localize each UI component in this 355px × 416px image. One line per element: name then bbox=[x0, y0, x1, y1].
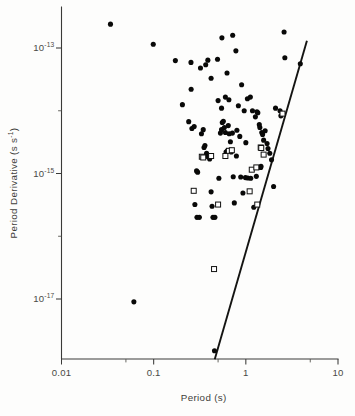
data-point-circle-39 bbox=[192, 124, 197, 129]
data-point-circle-11 bbox=[233, 48, 238, 53]
data-point-circle-36 bbox=[180, 102, 185, 107]
data-point-circle-53 bbox=[209, 189, 214, 194]
data-point-circle-28 bbox=[269, 157, 274, 162]
data-point-circle-14 bbox=[248, 95, 253, 100]
data-point-square-9 bbox=[247, 189, 252, 194]
data-point-circle-91 bbox=[189, 87, 194, 92]
data-point-circle-42 bbox=[192, 202, 197, 207]
data-point-square-2 bbox=[201, 155, 206, 160]
data-point-circle-2 bbox=[173, 58, 178, 63]
data-point-circle-15 bbox=[250, 108, 255, 113]
data-point-circle-35 bbox=[298, 61, 303, 66]
data-point-circle-93 bbox=[219, 106, 224, 111]
data-point-circle-56 bbox=[212, 215, 217, 220]
death-line bbox=[215, 41, 307, 359]
data-point-square-16 bbox=[280, 111, 285, 116]
data-point-circle-12 bbox=[239, 82, 244, 87]
data-point-circle-30 bbox=[273, 106, 278, 111]
x-tick-label-2: 1 bbox=[243, 367, 249, 378]
data-point-circle-67 bbox=[226, 123, 231, 128]
data-point-square-0 bbox=[191, 188, 196, 193]
data-point-circle-18 bbox=[255, 110, 260, 115]
data-point-circle-54 bbox=[210, 204, 215, 209]
data-point-circle-4 bbox=[198, 65, 203, 70]
data-point-circle-10 bbox=[230, 33, 235, 38]
data-point-circle-24 bbox=[263, 128, 268, 133]
data-point-circle-44 bbox=[197, 215, 202, 220]
data-point-circle-74 bbox=[234, 153, 239, 158]
y-tick-label-1: 10-15 bbox=[33, 167, 54, 179]
data-point-circle-69 bbox=[228, 139, 233, 144]
scatter-plot-figure: 10-1310-1510-170.010.1110Period (s)Perio… bbox=[0, 0, 355, 416]
data-point-circle-80 bbox=[242, 108, 247, 113]
data-point-circle-62 bbox=[221, 119, 226, 124]
data-point-circle-57 bbox=[216, 98, 221, 103]
data-point-circle-41 bbox=[195, 170, 200, 175]
data-point-circle-86 bbox=[254, 174, 259, 179]
data-point-circle-9 bbox=[224, 70, 229, 75]
data-point-circle-0 bbox=[108, 22, 113, 27]
data-point-square-8 bbox=[229, 148, 234, 153]
data-point-circle-58 bbox=[216, 176, 221, 181]
data-point-circle-89 bbox=[212, 348, 217, 353]
data-point-circle-95 bbox=[226, 97, 231, 102]
y-tick-label-0: 10-13 bbox=[33, 41, 54, 53]
data-point-square-14 bbox=[259, 145, 264, 150]
data-point-square-6 bbox=[223, 154, 228, 159]
data-point-circle-90 bbox=[131, 299, 136, 304]
data-point-circle-73 bbox=[232, 200, 237, 205]
data-point-circle-34 bbox=[282, 55, 287, 60]
x-tick-label-1: 0.1 bbox=[147, 367, 161, 378]
y-axis-title: Period Derivative (s s-1) bbox=[7, 127, 19, 238]
data-point-circle-20 bbox=[257, 125, 262, 130]
data-point-circle-72 bbox=[231, 174, 236, 179]
data-point-square-3 bbox=[209, 154, 214, 159]
data-point-square-4 bbox=[212, 267, 217, 272]
data-point-circle-76 bbox=[236, 103, 241, 108]
data-point-circle-75 bbox=[234, 128, 239, 133]
data-point-circle-7 bbox=[215, 57, 220, 62]
data-point-circle-92 bbox=[209, 76, 214, 81]
data-point-circle-27 bbox=[267, 151, 272, 156]
x-tick-label-0: 0.01 bbox=[52, 367, 71, 378]
data-point-circle-25 bbox=[265, 141, 270, 146]
data-point-circle-84 bbox=[248, 176, 253, 181]
data-point-square-15 bbox=[261, 152, 266, 157]
data-point-circle-29 bbox=[271, 184, 276, 189]
x-axis-title: Period (s) bbox=[181, 392, 227, 403]
data-point-square-11 bbox=[254, 165, 259, 170]
data-point-circle-78 bbox=[238, 174, 243, 179]
y-tick-label-2: 10-17 bbox=[33, 292, 54, 304]
data-point-circle-37 bbox=[186, 119, 191, 124]
data-point-square-12 bbox=[255, 202, 260, 207]
data-point-circle-46 bbox=[201, 127, 206, 132]
x-tick-label-3: 10 bbox=[332, 367, 343, 378]
data-point-circle-6 bbox=[205, 58, 210, 63]
data-point-circle-26 bbox=[265, 146, 270, 151]
data-point-circle-77 bbox=[237, 134, 242, 139]
data-point-circle-8 bbox=[219, 35, 224, 40]
data-point-circle-71 bbox=[230, 131, 235, 136]
data-point-circle-82 bbox=[243, 140, 248, 145]
data-point-circle-48 bbox=[202, 143, 207, 148]
data-point-circle-5 bbox=[203, 62, 208, 67]
data-point-circle-33 bbox=[282, 29, 287, 34]
plot-canvas: 10-1310-1510-170.010.1110Period (s)Perio… bbox=[0, 0, 355, 416]
data-point-circle-3 bbox=[188, 60, 193, 65]
data-point-square-5 bbox=[216, 202, 221, 207]
data-point-circle-1 bbox=[151, 42, 156, 47]
axis-frame bbox=[62, 7, 339, 359]
data-point-circle-79 bbox=[240, 190, 245, 195]
series-filled-circles bbox=[108, 22, 303, 354]
